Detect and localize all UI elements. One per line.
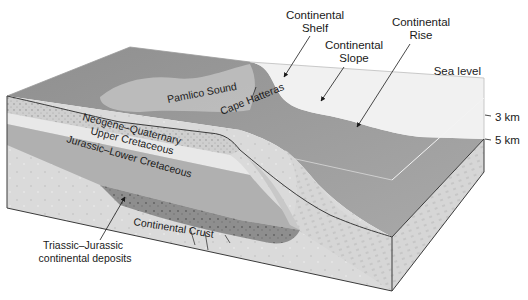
label-continental-slope-line2: Slope xyxy=(339,52,368,64)
continental-margin-diagram: Continental Shelf Continental Slope Cont… xyxy=(0,0,528,300)
label-3km: 3 km xyxy=(495,111,520,123)
tick-3km xyxy=(485,115,491,116)
label-sea-level: Sea level xyxy=(434,65,481,77)
label-continental-shelf-line1: Continental xyxy=(286,9,344,21)
label-continental-rise-line1: Continental xyxy=(392,16,450,28)
label-continental-slope-line1: Continental xyxy=(325,39,383,51)
tick-5km xyxy=(485,139,491,140)
label-triassic-jurassic-line1: Triassic–Jurassic xyxy=(43,239,123,251)
label-continental-rise-line2: Rise xyxy=(409,29,432,41)
label-triassic-jurassic-line2: continental deposits xyxy=(39,252,132,264)
label-5km: 5 km xyxy=(495,134,520,146)
label-continental-shelf-line2: Shelf xyxy=(302,22,329,34)
